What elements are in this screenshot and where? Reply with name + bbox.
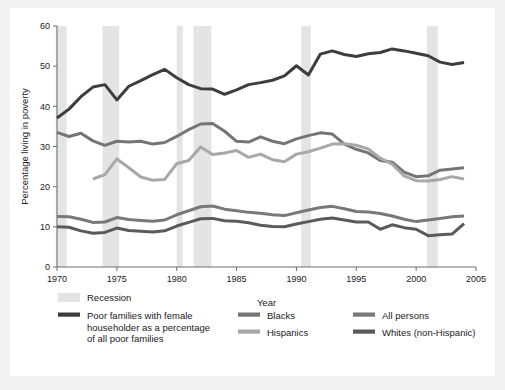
y-tick-label-60: 60 <box>40 21 50 31</box>
legend-label-hispanics: Hispanics <box>267 327 308 338</box>
y-tick-label-50: 50 <box>40 61 50 71</box>
legend-label-poor-families-with-female-line3: of all poor families <box>87 333 164 344</box>
recession-band-2 <box>177 26 183 267</box>
legend-swatch-whites-non-hispanic <box>353 330 375 334</box>
y-tick-label-20: 20 <box>40 182 50 192</box>
y-axis-ticks: 0102030405060 <box>40 21 57 272</box>
legend-label-all-persons: All persons <box>382 310 429 321</box>
y-tick-label-30: 30 <box>40 142 50 152</box>
poverty-line-chart: 0102030405060 19701975198019851990199520… <box>10 8 495 376</box>
x-tick-label-1990: 1990 <box>286 274 306 284</box>
x-tick-label-1995: 1995 <box>346 274 366 284</box>
legend-label-whites-non-hispanic: Whites (non-Hispanic) <box>382 327 475 338</box>
x-tick-label-1980: 1980 <box>167 274 187 284</box>
series-line-hispanics <box>93 144 464 181</box>
legend-swatch-poor-families-with-female <box>58 313 80 317</box>
legend-swatch-recession <box>58 293 80 302</box>
y-tick-label-40: 40 <box>40 102 50 112</box>
x-tick-label-1985: 1985 <box>227 274 247 284</box>
legend-swatch-all-persons <box>353 313 375 317</box>
legend-label-recession: Recession <box>87 292 131 303</box>
x-tick-label-2000: 2000 <box>406 274 426 284</box>
legend-swatch-blacks <box>238 313 260 317</box>
y-tick-label-0: 0 <box>45 262 50 272</box>
chart-figure: 0102030405060 19701975198019851990199520… <box>10 8 495 376</box>
x-tick-label-1970: 1970 <box>47 274 67 284</box>
x-tick-label-2005: 2005 <box>466 274 486 284</box>
x-axis-title: Year <box>257 297 276 308</box>
recession-band-5 <box>427 26 438 267</box>
y-axis-title: Percentage living in poverty <box>19 88 30 205</box>
legend-swatch-hispanics <box>238 330 260 334</box>
legend-label-poor-families-with-female-line2: householder as a percentage <box>87 322 210 333</box>
recession-band-4 <box>301 26 311 267</box>
legend-label-poor-families-with-female: Poor families with female <box>87 310 193 321</box>
y-tick-label-10: 10 <box>40 222 50 232</box>
legend-label-blacks: Blacks <box>267 310 295 321</box>
x-tick-label-1975: 1975 <box>107 274 127 284</box>
x-axis-ticks: 19701975198019851990199520002005 <box>47 267 486 284</box>
